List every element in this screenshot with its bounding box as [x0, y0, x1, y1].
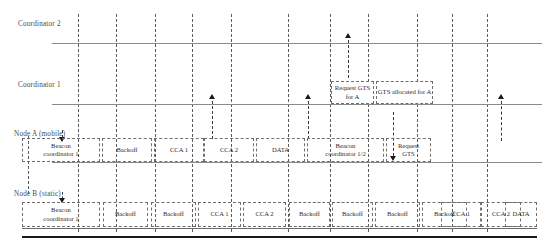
slot-divider-5: [231, 14, 232, 232]
node-a-frame-label-backoff-1: Backoff: [116, 146, 137, 154]
node-b-frame-backoff-5: Backoff: [375, 202, 420, 227]
node-b-frame-backoff-4: Backoff: [332, 202, 373, 227]
node-a-frame-cca-1: CCA 1: [154, 138, 204, 162]
node-b-frame-label-backoff-5: Backoff: [387, 210, 408, 218]
node-b-frame-backoff-3: Backoff: [289, 202, 330, 227]
arrow-head-coordinator-1-tx-2: [305, 94, 311, 99]
callout-gts-allocated-for-a: GTS allocated for A: [376, 81, 433, 104]
axis-node-b: [22, 228, 537, 229]
slot-divider-7: [330, 14, 331, 232]
node-b-frame-backoff-2: Backoff: [151, 202, 196, 227]
slot-divider-3: [155, 14, 156, 232]
slot-divider-1: [78, 14, 79, 232]
callout-request-gts-line1: Request: [335, 84, 356, 91]
node-b-frame-label-cca-3: CCA 1: [452, 210, 470, 218]
arrow-head-coordinator-1-tx-3: [498, 94, 504, 99]
node-b-frame-label-backoff-3: Backoff: [299, 210, 320, 218]
node-a-frame-label-beacon12-line2: coordinator 1/2: [325, 150, 365, 158]
node-b-frame-label-backoff-1: Backoff: [115, 210, 136, 218]
node-b-frame-cca-1: CCA 1: [198, 202, 241, 227]
arrow-head-coordinator-2-beacon: [345, 33, 351, 38]
node-a-frame-label-line2: coordinator 1: [43, 150, 78, 158]
slot-divider-11: [487, 14, 488, 232]
timing-diagram: Coordinator 2 Coordinator 1 Node A (mobi…: [0, 0, 546, 244]
node-a-frame-beacon-coordinator-1-2: Beacon coordinator 1/2: [307, 138, 384, 162]
callout-gts-allocated-line1: GTS: [378, 88, 390, 95]
node-b-frame-cca-2: CCA 2: [243, 202, 286, 227]
node-a-frame-backoff-1: Backoff: [102, 138, 152, 162]
node-a-frame-beacon-coordinator-1: Beacon coordinator 1: [22, 138, 100, 162]
node-b-frame-backoff-1: Backoff: [103, 202, 148, 227]
lane-label-node-a: Node A (mobile): [14, 130, 65, 138]
slot-divider-2: [116, 14, 117, 232]
node-b-frame-label-backoff-2: Backoff: [163, 210, 184, 218]
arrow-stem-coordinator-2-beacon: [348, 40, 349, 78]
node-b-frame-cca-4: CCA 1: [441, 202, 481, 227]
axis-coordinator-1: [52, 104, 542, 105]
slot-divider-8: [368, 14, 369, 232]
slot-divider-9: [417, 14, 418, 232]
node-a-frame-cca-2: CCA 2: [204, 138, 254, 162]
node-a-frame-label-data-1: DATA: [272, 146, 289, 154]
node-a-frame-label-cca-2: CCA 2: [220, 146, 238, 154]
arrow-head-coordinator-1-tx-1: [209, 94, 215, 99]
lane-label-node-b: Node B (static): [14, 190, 61, 198]
arrow-stem-coordinator-1-tx-2: [308, 101, 309, 139]
callout-gts-allocated-line2: allocated for A: [392, 88, 431, 95]
arrow-stem-coordinator-1-tx-1: [212, 101, 213, 139]
lane-label-coordinator-2: Coordinator 2: [18, 20, 61, 28]
lane-label-coordinator-1: Coordinator 1: [18, 81, 61, 89]
axis-coordinator-2: [52, 43, 542, 44]
node-b-frame-label-data-2: DATA: [512, 210, 529, 218]
slot-divider-4: [192, 14, 193, 232]
node-a-frame-label-reqgts-line2: GTS: [398, 150, 419, 158]
node-b-frame-label-line2: coordinator 1: [43, 215, 78, 223]
baseline-rule: [22, 236, 537, 238]
node-a-frame-data-1: DATA: [256, 138, 305, 162]
slot-divider-6: [288, 14, 289, 232]
node-b-frame-beacon-coordinator-1: Beacon coordinator 1: [22, 202, 100, 227]
node-b-frame-data-2: DATA: [505, 202, 537, 227]
node-b-frame-label-backoff-4: Backoff: [342, 210, 363, 218]
callout-request-gts-for-a: Request GTS for A: [331, 81, 374, 104]
node-b-frame-label-cca-2: CCA 2: [255, 210, 273, 218]
node-a-frame-label-reqgts-line1: Request: [398, 142, 419, 150]
node-b-frame-label-line1: Beacon: [43, 206, 78, 214]
node-b-frame-label-cca-1: CCA 1: [210, 210, 228, 218]
node-a-frame-request-gts: Request GTS: [386, 138, 431, 162]
node-a-frame-label-beacon12-line1: Beacon: [325, 142, 365, 150]
axis-node-a: [52, 162, 542, 163]
node-a-frame-label-cca-1: CCA 1: [170, 146, 188, 154]
slot-divider-10: [452, 14, 453, 232]
arrow-stem-coordinator-1-tx-3: [501, 101, 502, 141]
node-a-frame-label-line1: Beacon: [43, 142, 78, 150]
